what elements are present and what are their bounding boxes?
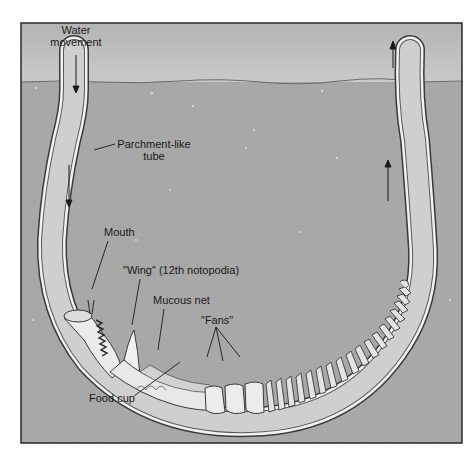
label-parchment-tube: Parchment-like tube [114, 138, 194, 162]
label-water-movement: Water movement [50, 24, 102, 48]
label-water-line1: Water [50, 24, 102, 36]
label-water-line2: movement [50, 36, 102, 48]
label-parchment-line1: Parchment-like [114, 138, 194, 150]
label-wing: "Wing" (12th notopodia) [123, 264, 239, 276]
diagram-canvas [0, 0, 473, 459]
mouth-funnel [64, 310, 92, 322]
label-food-cup: Food cup [89, 392, 135, 404]
burrow-diagram: Water movement Parchment-like tube Mouth… [0, 0, 473, 459]
label-mouth: Mouth [104, 226, 135, 238]
label-parchment-line2: tube [114, 150, 194, 162]
label-fans: "Fans" [201, 314, 233, 326]
label-mucous-net: Mucous net [153, 294, 210, 306]
fans [205, 382, 264, 414]
